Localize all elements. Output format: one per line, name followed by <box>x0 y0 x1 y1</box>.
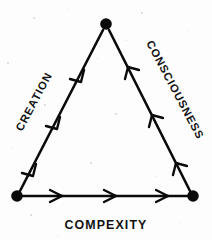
edge-label-compexity: COMPEXITY <box>65 218 148 232</box>
diagram-canvas: CREATION COMPEXITY CONSCIOUSNESS <box>0 0 212 240</box>
edge-consciousness-line <box>109 30 190 191</box>
edge-compexity: COMPEXITY <box>23 190 187 232</box>
edge-label-creation: CREATION <box>13 70 54 133</box>
edge-label-consciousness: CONSCIOUSNESS <box>144 38 206 141</box>
bottom-left-node <box>11 190 23 202</box>
bottom-right-node <box>187 190 199 202</box>
apex-node <box>100 18 112 30</box>
triangle-cycle-diagram: CREATION COMPEXITY CONSCIOUSNESS <box>0 0 212 240</box>
edge-consciousness: CONSCIOUSNESS <box>109 30 206 191</box>
edge-creation: CREATION <box>13 30 103 191</box>
